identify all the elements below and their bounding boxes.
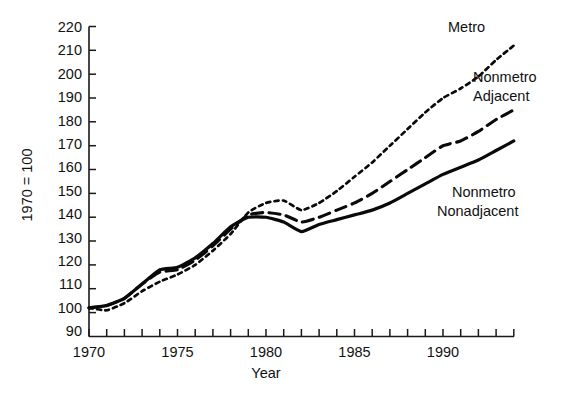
- y-tick-label: 200: [58, 66, 82, 82]
- y-tick-label: 150: [58, 183, 82, 199]
- series-label-metro: Metro: [448, 19, 485, 35]
- y-tick-label: 130: [58, 230, 82, 246]
- y-tick-label: 220: [58, 19, 82, 35]
- series-label-nonmetro-nonadjacent-line2: Nonadjacent: [437, 203, 518, 219]
- y-tick-label: 120: [58, 253, 82, 269]
- x-tick-labels: 1970 1975 1980 1985 1990: [73, 344, 459, 360]
- y-tick-label: 170: [58, 136, 82, 152]
- x-tick-label: 1990: [427, 344, 459, 360]
- y-tick-label: 100: [58, 300, 82, 316]
- series-line-metro: [89, 46, 514, 311]
- x-tick-label: 1975: [161, 344, 193, 360]
- y-tick-labels: 220 210 200 190 180 170 160 150 140 130 …: [58, 19, 82, 339]
- x-tick-label: 1980: [250, 344, 282, 360]
- y-tick-label: 180: [58, 113, 82, 129]
- x-axis-title: Year: [251, 365, 280, 381]
- y-tick-label: 90: [66, 323, 82, 339]
- y-tick-label: 190: [58, 89, 82, 105]
- y-tick-label: 160: [58, 159, 82, 175]
- y-tick-label: 140: [58, 206, 82, 222]
- series-line-nonmetro-nonadjacent: [89, 141, 514, 308]
- line-chart: 1970 = 100 220 210 200 190 180 170 160 1…: [0, 0, 573, 394]
- y-axis-ticks: [89, 27, 96, 313]
- series-label-nonmetro-adjacent-line1: Nonmetro: [473, 69, 537, 85]
- y-axis-title: 1970 = 100: [19, 149, 35, 222]
- series-label-nonmetro-nonadjacent-line1: Nonmetro: [452, 184, 516, 200]
- x-axis-ticks: [89, 329, 514, 337]
- x-tick-label: 1985: [338, 344, 370, 360]
- series-label-nonmetro-adjacent-line2: Adjacent: [473, 88, 529, 104]
- y-tick-label: 210: [58, 42, 82, 58]
- x-tick-label: 1970: [73, 344, 105, 360]
- y-tick-label: 110: [59, 276, 82, 292]
- chart-container: 1970 = 100 220 210 200 190 180 170 160 1…: [0, 0, 573, 394]
